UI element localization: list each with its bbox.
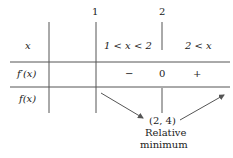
fprime-sign-1: − bbox=[125, 68, 133, 79]
table-lines bbox=[0, 0, 233, 158]
fprime-sign-2: + bbox=[193, 68, 201, 79]
interval-1: 1 < x < 2 bbox=[104, 40, 152, 51]
fprime-zero: 0 bbox=[159, 68, 165, 79]
decreasing-arrow bbox=[101, 93, 143, 118]
row-label-f: f(x) bbox=[19, 93, 36, 104]
critical-point-1: 1 bbox=[92, 6, 98, 17]
critical-point-2: 2 bbox=[159, 6, 165, 17]
interval-2: 2 < x bbox=[185, 40, 212, 51]
increasing-arrow bbox=[180, 95, 224, 120]
row-label-x: x bbox=[25, 40, 31, 51]
min-label-2: minimum bbox=[140, 139, 188, 150]
row-label-fprime: f′(x) bbox=[17, 68, 36, 79]
min-label-1: Relative bbox=[145, 127, 186, 138]
min-point: (2, 4) bbox=[149, 115, 176, 126]
